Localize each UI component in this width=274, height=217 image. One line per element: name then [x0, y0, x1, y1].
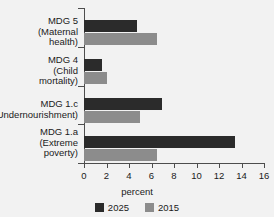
bar-mdg4-2015	[84, 72, 107, 84]
plot-area	[84, 8, 264, 163]
bar-mdg1a-2025	[84, 136, 235, 148]
x-axis-tick	[197, 164, 198, 168]
bar-group-mdg1c	[84, 98, 264, 125]
legend-item-2015: 2015	[145, 202, 179, 213]
bar-group-mdg4	[84, 59, 264, 86]
x-axis-tick-label: 14	[236, 170, 247, 181]
x-axis-tick	[107, 164, 108, 168]
bar-mdg1a-2015	[84, 149, 157, 161]
x-axis-tick-label: 10	[191, 170, 202, 181]
category-label-mdg5: MDG 5 (Maternal health)	[38, 16, 78, 48]
legend-label: 2025	[108, 202, 129, 213]
x-axis-tick-label: 6	[149, 170, 154, 181]
x-axis-tick-label: 12	[214, 170, 225, 181]
x-axis-title: percent	[0, 186, 274, 197]
x-axis-tick	[174, 164, 175, 168]
category-label-line: poverty)	[39, 148, 78, 159]
x-axis-tick-label: 16	[259, 170, 270, 181]
x-axis-tick-label: 0	[81, 170, 86, 181]
legend-swatch-icon	[95, 203, 104, 212]
category-label-line: MDG 1.a	[39, 127, 78, 138]
x-axis-tick	[242, 164, 243, 168]
bar-mdg5-2025	[84, 20, 137, 32]
bar-mdg4-2025	[84, 59, 102, 71]
x-axis-tick	[219, 164, 220, 168]
category-label-line: mortality)	[39, 76, 78, 87]
category-label-line: MDG 5	[38, 16, 78, 27]
category-label-line: (Undernourishment)	[0, 110, 78, 121]
legend: 2025 2015	[0, 202, 274, 213]
x-axis-tick-label: 8	[171, 170, 176, 181]
x-axis-tick-label: 4	[126, 170, 131, 181]
category-label-mdg1c: MDG 1.c (Undernourishment)	[41, 99, 78, 110]
bar-group-mdg5	[84, 20, 264, 47]
legend-label: 2015	[158, 202, 179, 213]
category-label-line: MDG 1.c	[41, 99, 78, 110]
x-axis-tick	[152, 164, 153, 168]
category-label-mdg1a: MDG 1.a (Extreme poverty)	[39, 127, 78, 159]
legend-item-2025: 2025	[95, 202, 129, 213]
legend-swatch-icon	[145, 203, 154, 212]
bar-mdg1c-2025	[84, 98, 162, 110]
category-label-mdg4: MDG 4 (Child mortality)	[39, 55, 78, 87]
category-label-line: health)	[38, 37, 78, 48]
x-axis-tick	[84, 164, 85, 168]
category-label-line: MDG 4	[39, 55, 78, 66]
x-axis-tick-label: 2	[104, 170, 109, 181]
bar-chart: MDG 5 (Maternal health) MDG 4 (Child mor…	[0, 0, 274, 217]
x-axis-tick	[129, 164, 130, 168]
bar-mdg1c-2015	[84, 111, 140, 123]
bar-group-mdg1a	[84, 136, 264, 163]
x-axis-tick	[264, 164, 265, 168]
bar-mdg5-2015	[84, 33, 157, 45]
